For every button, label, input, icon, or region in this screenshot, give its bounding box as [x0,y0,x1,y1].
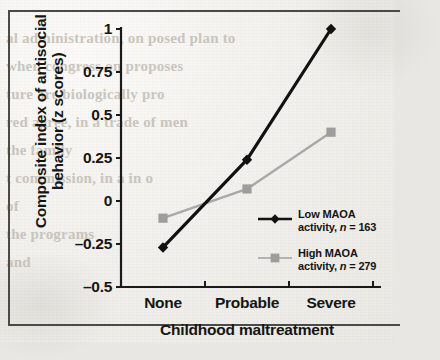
legend-label-high-maoa-line2-suffix: = 279 [346,260,376,272]
chart-plot-area: Composite index of antisocial behavior (… [10,12,400,324]
chart-legend: Low MAOA activity, n = 163 High MAOA act… [258,208,376,286]
legend-label-high-maoa: High MAOA activity, n = 279 [298,247,376,273]
legend-label-low-maoa-line2-prefix: activity, [298,221,340,233]
legend-item-low-maoa: Low MAOA activity, n = 163 [258,208,376,234]
legend-label-low-maoa-line1: Low MAOA [298,208,355,220]
legend-swatch-high-maoa-line-square [258,252,292,264]
legend-label-high-maoa-line1: High MAOA [298,247,358,259]
legend-label-high-maoa-line2-prefix: activity, [298,260,340,272]
legend-label-low-maoa-line2-suffix: = 163 [346,221,376,233]
legend-item-high-maoa: High MAOA activity, n = 279 [258,247,376,273]
legend-label-low-maoa: Low MAOA activity, n = 163 [298,208,376,234]
legend-swatch-low-maoa-line-diamond [258,213,292,225]
figure-frame: Composite index of antisocial behavior (… [8,10,400,326]
